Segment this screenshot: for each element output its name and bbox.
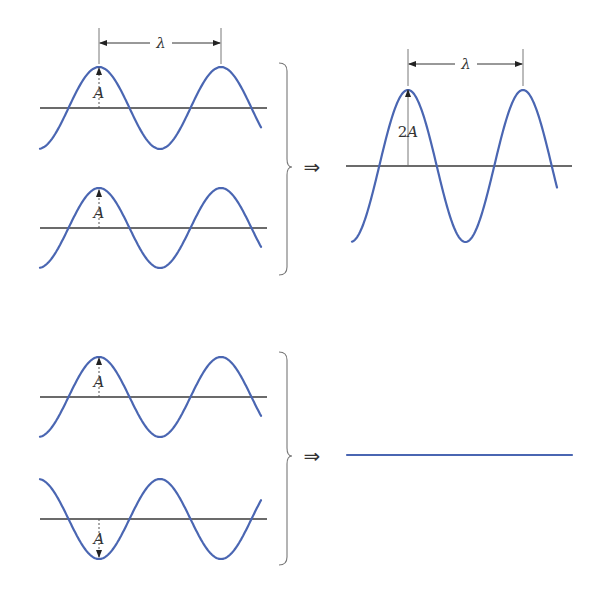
- right-brace: [279, 352, 292, 565]
- amplitude-label: A: [92, 84, 105, 102]
- constructive-interference-panel: λ A A ⇒ λ 2A: [40, 28, 572, 275]
- wavelength-label: λ: [460, 55, 471, 73]
- input-wave-1: λ A: [40, 28, 267, 149]
- amplitude-label: A: [92, 204, 105, 222]
- implies-arrow-icon: ⇒: [304, 155, 321, 179]
- interference-diagram: λ A A ⇒ λ 2A: [0, 0, 608, 591]
- input-wave-4-inverted: A: [40, 479, 267, 559]
- amplitude-label: A: [92, 373, 105, 391]
- wavelength-label: λ: [155, 34, 166, 52]
- amplitude-label: A: [92, 530, 105, 548]
- double-amplitude-label: 2A: [398, 123, 419, 141]
- right-brace: [279, 63, 292, 275]
- result-wave-constructive: λ 2A: [346, 49, 572, 242]
- input-wave-3: A: [40, 357, 267, 437]
- implies-arrow-icon: ⇒: [304, 444, 321, 468]
- input-wave-2: A: [40, 188, 267, 268]
- destructive-interference-panel: A A ⇒: [40, 352, 572, 565]
